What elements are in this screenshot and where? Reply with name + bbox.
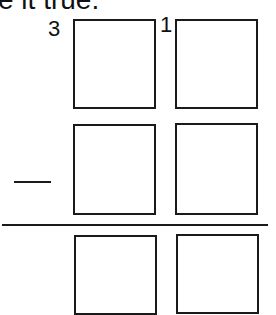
subtrahend-tens-box[interactable] <box>73 124 156 215</box>
difference-tens-box[interactable] <box>74 235 157 315</box>
instruction-text: e it true. <box>0 0 99 16</box>
sum-line <box>2 224 268 226</box>
carry-mark-ones: 1 <box>160 14 172 36</box>
subtrahend-ones-box[interactable] <box>175 123 258 215</box>
minuend-ones-box[interactable] <box>175 19 258 109</box>
minuend-tens-box[interactable] <box>73 19 156 109</box>
difference-ones-box[interactable] <box>176 234 259 314</box>
carry-mark-tens: 3 <box>48 18 60 40</box>
minus-sign <box>14 181 51 183</box>
